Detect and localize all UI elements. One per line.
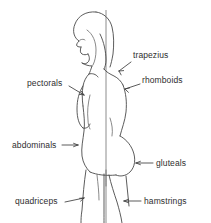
label-gluteals: gluteals [156, 158, 186, 168]
hips-and-legs [81, 170, 129, 223]
label-pectorals: pectorals [27, 78, 62, 88]
label-rhomboids: rhomboids [142, 75, 183, 85]
label-leaders [62, 62, 153, 203]
label-quadriceps: quadriceps [15, 196, 58, 206]
label-hamstrings: hamstrings [144, 196, 187, 206]
head-and-hair [74, 12, 114, 74]
label-abdominals: abdominals [12, 140, 56, 150]
figure-illustration [0, 0, 211, 223]
label-trapezius: trapezius [133, 50, 168, 60]
anatomy-diagram: trapezius rhomboids pectorals abdominals… [0, 0, 211, 223]
